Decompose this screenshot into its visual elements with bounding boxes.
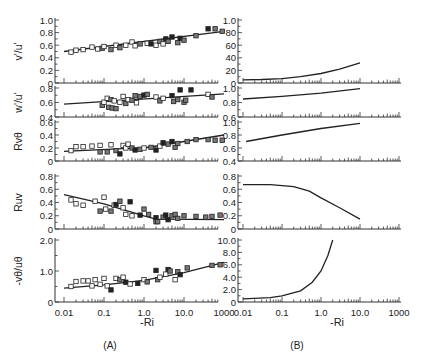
data-point [98, 209, 102, 213]
data-point [154, 268, 158, 272]
y-tick-label: 0.2 [40, 143, 53, 154]
y-tick-label: 6.0 [223, 259, 236, 270]
figure-container: 00.20.40.60.81.0v'/u'0.40.60.8w'/u'00.20… [0, 0, 429, 363]
data-point [109, 209, 113, 213]
model-curve [243, 240, 333, 299]
subplot-a-4: 00.20.40.60.8Ruv [12, 171, 224, 235]
data-point [164, 213, 168, 217]
data-point [121, 94, 125, 98]
y-axis-label: w'/u' [12, 92, 24, 113]
data-point [218, 213, 222, 217]
y-tick-label: 0.4 [40, 52, 53, 63]
data-point [176, 97, 180, 101]
data-point [145, 280, 149, 284]
data-point [90, 284, 94, 288]
data-point [102, 276, 106, 280]
data-point [176, 216, 180, 220]
y-tick-label: 0.4 [40, 130, 53, 141]
data-point [102, 44, 106, 48]
y-tick-label: 0.8 [223, 130, 236, 141]
y-tick-label: 0.6 [40, 40, 53, 51]
data-point [98, 143, 102, 147]
data-point [206, 27, 210, 31]
data-point [74, 48, 78, 52]
data-point [182, 214, 186, 218]
data-point [161, 42, 165, 46]
data-point [81, 145, 85, 149]
y-tick-label: 8.0 [223, 247, 236, 258]
data-point [194, 137, 198, 141]
data-point [210, 263, 214, 267]
data-point [146, 212, 150, 216]
data-point [149, 145, 153, 149]
data-point [184, 98, 188, 102]
data-point [178, 273, 182, 277]
data-point [74, 202, 78, 206]
data-point [173, 278, 177, 282]
figure-svg: 00.20.40.60.81.0v'/u'0.40.60.8w'/u'00.20… [0, 0, 429, 363]
model-curve [243, 185, 360, 220]
data-point [118, 152, 122, 156]
data-point [90, 45, 94, 49]
data-point [170, 35, 174, 39]
data-point [121, 206, 125, 210]
data-point [118, 100, 122, 104]
data-point [69, 284, 73, 288]
y-tick-label: 0.4 [40, 197, 53, 208]
data-point [81, 47, 85, 51]
data-point [142, 207, 146, 211]
x-axis-title-b: -Ri [330, 316, 344, 328]
data-point [124, 280, 128, 284]
subplot-b-1: 0204060801.0 [223, 15, 401, 89]
x-tick-label: 0.01 [55, 307, 74, 318]
y-tick-label: 0.8 [223, 171, 236, 182]
subplot-a-3: 00.20.40.6Rvθ [12, 117, 224, 167]
y-tick-label: 1.0 [223, 117, 236, 128]
y-tick-label: 0 [48, 156, 53, 167]
panel-label-b: (B) [290, 340, 303, 351]
data-point [164, 272, 168, 276]
subplot-a-5: 01.02.0-vθ/uθ [12, 235, 224, 308]
y-tick-label: 40 [225, 52, 236, 63]
data-point [114, 106, 118, 110]
y-tick-label: 0.6 [40, 117, 53, 128]
data-point [178, 88, 182, 92]
y-tick-label: 1.0 [40, 15, 53, 26]
data-point [176, 141, 180, 145]
subplot-b-3: 0.40.60.81.0 [223, 117, 401, 167]
y-tick-label: 10.0 [218, 235, 237, 246]
y-tick-label: 0 [231, 297, 236, 308]
data-point [194, 34, 198, 38]
data-point [134, 101, 138, 105]
fit-line [64, 31, 224, 51]
data-point [81, 203, 85, 207]
x-tick-label: 10.0 [351, 307, 370, 318]
data-point [136, 281, 140, 285]
y-tick-label: 0.6 [223, 184, 236, 195]
data-point [133, 148, 137, 152]
data-point [138, 42, 142, 46]
data-point [93, 278, 97, 282]
data-point [161, 141, 165, 145]
data-point [210, 214, 214, 218]
data-point [213, 138, 217, 142]
data-point [81, 279, 85, 283]
data-point [158, 275, 162, 279]
y-axis-label: -vθ/uθ [12, 256, 24, 285]
x-tick-label: 0.1 [275, 307, 288, 318]
y-axis-label: Rvθ [12, 132, 24, 151]
data-point [124, 212, 128, 216]
fit-line [64, 262, 224, 288]
data-point [185, 266, 189, 270]
data-point [98, 282, 102, 286]
x-tick-label: 1.0 [314, 307, 327, 318]
y-tick-label: 0.2 [223, 210, 236, 221]
data-point [86, 279, 90, 283]
data-point [149, 42, 153, 46]
data-point [90, 144, 94, 148]
y-tick-label: 20 [225, 65, 236, 76]
data-point [182, 38, 186, 42]
data-point [109, 47, 113, 51]
data-point [69, 50, 73, 54]
data-point [118, 46, 122, 50]
